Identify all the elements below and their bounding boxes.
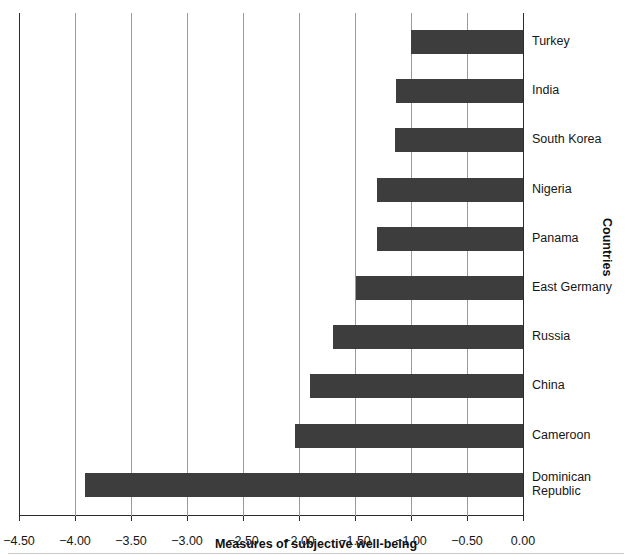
bar [310, 374, 523, 398]
gridline [243, 13, 244, 516]
bar [377, 178, 523, 202]
category-label: India [532, 83, 559, 97]
category-label: Cameroon [532, 428, 590, 442]
category-label: East Germany [532, 280, 612, 294]
category-label: China [532, 378, 565, 392]
bar [377, 227, 523, 251]
zero-axis-line [523, 13, 524, 516]
chart-figure: −4.50−4.00−3.50−3.00−2.50−2.00−1.50−1.00… [0, 0, 632, 560]
bar [295, 424, 523, 448]
x-axis-title: Measures of subjective well-being [0, 537, 632, 551]
tick-mark [187, 516, 188, 521]
gridline [75, 13, 76, 516]
footer-divider [8, 553, 624, 554]
category-label: South Korea [532, 132, 602, 146]
category-label: Nigeria [532, 182, 572, 196]
bar [333, 325, 523, 349]
plot-area: −4.50−4.00−3.50−3.00−2.50−2.00−1.50−1.00… [19, 13, 523, 516]
category-label: Dominican Republic [532, 470, 591, 498]
gridline [187, 13, 188, 516]
gridline [131, 13, 132, 516]
y-axis-title: Countries [600, 218, 614, 276]
tick-mark [131, 516, 132, 521]
y-axis-line [19, 13, 20, 516]
x-axis-line [19, 515, 524, 516]
bar [85, 473, 523, 497]
tick-mark [355, 516, 356, 521]
category-label: Panama [532, 231, 579, 245]
tick-mark [19, 516, 20, 521]
bar [356, 276, 523, 300]
tick-mark [299, 516, 300, 521]
bar [395, 128, 523, 152]
category-label: Russia [532, 329, 570, 343]
tick-mark [523, 516, 524, 521]
tick-mark [243, 516, 244, 521]
bar [411, 30, 523, 54]
tick-mark [467, 516, 468, 521]
tick-mark [75, 516, 76, 521]
tick-mark [411, 516, 412, 521]
bar [396, 79, 523, 103]
category-label: Turkey [532, 34, 570, 48]
